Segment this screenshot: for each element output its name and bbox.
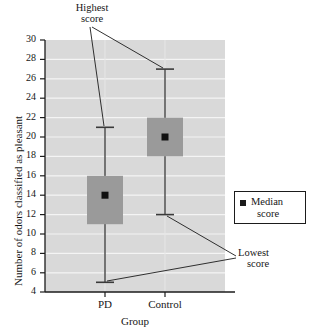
y-axis-title: Number of odors classified as pleasant [12, 116, 24, 286]
y-tick-label: 28 [16, 53, 36, 64]
annotation-highest-score: Highest score [76, 2, 109, 24]
y-tick-label: 4 [16, 286, 36, 297]
y-axis-ticks [40, 40, 45, 292]
annotation-highest-score-line1: Highest [76, 2, 109, 13]
pd-median-marker [102, 192, 109, 199]
y-tick-label: 24 [16, 92, 36, 103]
annotation-lowest-score-line2: score [238, 258, 269, 269]
pd-box [87, 176, 123, 224]
control-median-marker [162, 134, 169, 141]
y-tick-label: 26 [16, 73, 36, 84]
legend: Median score [234, 191, 306, 224]
plot-canvas [0, 0, 310, 336]
annotation-lowest-score: Lowest score [238, 247, 269, 269]
x-axis-ticks [105, 292, 165, 297]
x-tick-label-pd: PD [98, 299, 112, 311]
box-plot-figure: 30 28 26 24 22 20 18 16 14 12 10 8 6 4 N… [0, 0, 310, 336]
legend-entry-median-line2: score [251, 208, 283, 220]
annotation-highest-score-line2: score [76, 13, 109, 24]
x-axis-title: Group [121, 316, 149, 328]
plot-panel [45, 40, 225, 292]
median-square-icon [240, 200, 246, 206]
y-tick-label: 30 [16, 34, 36, 45]
legend-entry-median-line1: Median [251, 196, 283, 207]
x-tick-label-control: Control [148, 299, 182, 311]
legend-entry-median: Median score [251, 196, 283, 220]
annotation-lowest-score-line1: Lowest [238, 247, 269, 258]
